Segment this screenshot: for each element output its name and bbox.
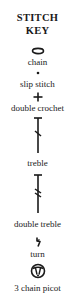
turn-icon [0,237,75,247]
stitch-label-chain: chain [0,57,75,67]
stitch-label-treble: treble [0,158,75,168]
dot-icon [0,71,75,75]
stitch-label-slip-stitch: slip stitch [0,79,75,89]
title-line-1: STITCH [0,12,75,24]
stitch-label-3-chain-picot: 3 chain picot [0,283,75,293]
stitch-label-double-treble: double treble [0,219,75,229]
stitch-label-turn: turn [0,249,75,259]
double-treble-icon [0,174,75,214]
plus-icon [0,92,75,102]
title-line-2: KEY [0,25,75,37]
picot-icon [0,263,75,279]
treble-icon [0,117,75,154]
chain-oval-icon [0,47,75,55]
stitch-label-double-crochet: double crochet [0,103,75,113]
